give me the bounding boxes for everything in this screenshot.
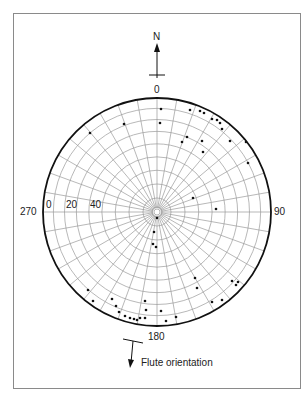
data-point bbox=[181, 141, 184, 144]
data-point bbox=[111, 298, 114, 301]
data-point bbox=[221, 299, 224, 302]
azimuth-label-90: 90 bbox=[274, 206, 286, 217]
data-point bbox=[124, 315, 127, 318]
data-point bbox=[231, 280, 234, 283]
data-point bbox=[175, 316, 178, 319]
data-point bbox=[229, 140, 232, 143]
azimuth-label-270: 270 bbox=[20, 206, 37, 217]
data-point bbox=[144, 300, 147, 303]
legend-label: Flute orientation bbox=[141, 357, 213, 368]
data-point bbox=[160, 108, 163, 111]
data-point bbox=[194, 277, 197, 280]
data-point bbox=[115, 305, 118, 308]
data-point bbox=[216, 119, 219, 122]
data-point bbox=[219, 122, 222, 125]
data-point bbox=[139, 317, 142, 320]
data-point bbox=[129, 317, 132, 320]
data-point bbox=[118, 311, 121, 314]
azimuth-label-0: 0 bbox=[154, 84, 160, 95]
data-point bbox=[247, 162, 250, 165]
polar-grid bbox=[43, 98, 271, 326]
north-arrow-icon bbox=[149, 43, 165, 78]
data-point bbox=[165, 320, 168, 323]
data-point bbox=[160, 310, 163, 313]
data-point bbox=[192, 197, 195, 200]
data-point bbox=[156, 217, 159, 220]
data-point bbox=[155, 246, 158, 249]
north-label: N bbox=[153, 31, 160, 42]
data-point bbox=[235, 284, 238, 287]
data-point bbox=[211, 301, 214, 304]
data-point bbox=[199, 110, 202, 113]
radial-label-40: 40 bbox=[90, 199, 102, 210]
data-point bbox=[245, 141, 248, 144]
flute-orientation-arrow-icon bbox=[123, 339, 143, 368]
data-point bbox=[144, 317, 147, 320]
data-point bbox=[189, 109, 192, 112]
data-point bbox=[159, 122, 162, 125]
radial-label-0: 0 bbox=[46, 199, 52, 210]
data-point bbox=[221, 128, 224, 131]
data-point bbox=[123, 123, 126, 126]
data-point bbox=[152, 243, 155, 246]
data-point bbox=[136, 319, 139, 322]
azimuth-label-180: 180 bbox=[148, 331, 165, 342]
data-point bbox=[87, 289, 90, 292]
data-point bbox=[211, 118, 214, 121]
data-point bbox=[215, 208, 218, 211]
data-point bbox=[145, 309, 148, 312]
data-point bbox=[201, 140, 204, 143]
radial-label-20: 20 bbox=[66, 199, 78, 210]
data-point bbox=[203, 112, 206, 115]
data-point bbox=[92, 300, 95, 303]
data-point bbox=[133, 318, 136, 321]
stereonet-diagram: N 0 90 180 270 0 20 40 Flute orientation bbox=[0, 0, 308, 395]
data-point bbox=[186, 136, 189, 139]
data-point bbox=[202, 151, 205, 154]
data-point bbox=[237, 281, 240, 284]
data-point bbox=[196, 287, 199, 290]
data-point bbox=[153, 231, 156, 234]
data-point bbox=[89, 132, 92, 135]
